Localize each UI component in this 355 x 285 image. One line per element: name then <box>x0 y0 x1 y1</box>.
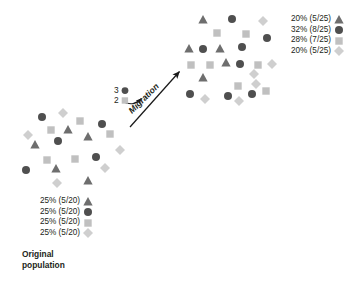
legend-right-item-label: 20% (5/25) <box>273 46 331 57</box>
legend-left-item-label: 25% (5/20) <box>22 196 80 207</box>
legend-left-item-label: 25% (5/20) <box>22 217 80 228</box>
diamond-icon <box>258 16 268 26</box>
square-icon <box>121 96 129 107</box>
legend-left-item-label: 25% (5/20) <box>22 228 80 239</box>
legend-right-item-row: 28% (7/25) <box>273 35 345 46</box>
triangle-icon <box>221 58 230 66</box>
triangle-icon <box>198 15 207 23</box>
legend-left-item-row: 25% (5/20) <box>22 196 94 207</box>
legend-right-item-row: 32% (8/25) <box>273 25 345 36</box>
triangle-icon <box>30 140 39 148</box>
diamond-icon <box>334 46 344 56</box>
diamond-icon <box>58 108 68 118</box>
diamond-icon <box>115 145 125 155</box>
caption-line-2: population <box>22 260 65 271</box>
triangle-icon <box>215 44 224 52</box>
diamond-icon <box>23 130 33 140</box>
circle-icon <box>263 34 271 42</box>
circle-icon <box>186 90 194 98</box>
square-icon <box>76 117 83 124</box>
circle-icon <box>238 43 246 51</box>
legend-left-item-row: 25% (5/20) <box>22 217 94 228</box>
cluster-original-population <box>22 108 125 188</box>
square-icon <box>335 37 342 44</box>
square-icon <box>234 82 241 89</box>
caption-original-population: Original population <box>22 249 65 271</box>
diagram-canvas: Migration 3 2 25% (5/20)25% (5/20)25% (5… <box>0 0 355 285</box>
diamond-icon <box>83 228 93 238</box>
migration-count-square: 2 <box>114 96 119 105</box>
legend-right-item-row: 20% (5/25) <box>273 14 345 25</box>
square-icon <box>47 126 54 133</box>
square-icon <box>187 61 194 68</box>
square-icon <box>331 35 345 46</box>
square-icon <box>254 61 261 68</box>
migration-count-circle-value: 3 <box>114 85 119 95</box>
triangle-icon <box>83 197 92 205</box>
circle-icon <box>98 120 106 128</box>
legend-left-item-row: 25% (5/20) <box>22 207 94 218</box>
circle-icon <box>22 166 30 174</box>
square-icon <box>43 156 50 163</box>
diamond-icon <box>251 79 261 89</box>
legend-right-item-row: 20% (5/25) <box>273 46 345 57</box>
square-icon <box>84 219 91 226</box>
circle-icon <box>331 25 345 36</box>
circle-icon <box>236 60 244 68</box>
triangle-icon <box>83 132 92 140</box>
legend-right-item-label: 28% (7/25) <box>273 35 331 46</box>
circle-icon <box>38 113 46 121</box>
diamond-icon <box>234 96 244 106</box>
square-icon <box>71 155 78 162</box>
diamond-icon <box>100 163 110 173</box>
diamond-icon <box>267 59 277 69</box>
cluster-post-migration-population <box>184 15 277 106</box>
migration-count-square-value: 2 <box>114 95 119 105</box>
legend-right-item-label: 20% (5/25) <box>273 14 331 25</box>
triangle-icon <box>83 176 92 184</box>
diamond-icon <box>80 228 94 239</box>
triangle-icon <box>184 44 193 52</box>
square-icon <box>206 61 213 68</box>
square-icon <box>106 130 113 137</box>
circle-icon <box>80 207 94 218</box>
circle-icon <box>84 208 92 216</box>
triangle-icon <box>198 73 207 81</box>
triangle-icon <box>51 164 60 172</box>
square-icon <box>262 87 269 94</box>
legend-right-item-label: 32% (8/25) <box>273 25 331 36</box>
diamond-icon <box>200 94 210 104</box>
square-icon <box>242 30 249 37</box>
legend-left-item-label: 25% (5/20) <box>22 207 80 218</box>
triangle-icon <box>331 14 345 25</box>
circle-icon <box>248 90 256 98</box>
circle-icon <box>228 15 236 23</box>
square-icon <box>213 29 220 36</box>
migration-count-circle: 3 <box>114 86 119 95</box>
square-icon <box>80 217 94 228</box>
circle-icon <box>335 26 343 34</box>
circle-icon <box>224 92 232 100</box>
diamond-icon <box>331 46 345 57</box>
circle-icon <box>199 45 207 53</box>
legend-left-item-row: 25% (5/20) <box>22 228 94 239</box>
triangle-icon <box>334 15 343 23</box>
legend-original-population: 25% (5/20)25% (5/20)25% (5/20)25% (5/20) <box>22 196 94 238</box>
diamond-icon <box>249 69 259 79</box>
diamond-icon <box>52 178 62 188</box>
circle-icon <box>92 153 100 161</box>
circle-icon <box>54 137 62 145</box>
triangle-icon <box>63 125 72 133</box>
legend-post-migration-population: 20% (5/25)32% (8/25)28% (7/25)20% (5/25) <box>273 14 345 56</box>
triangle-icon <box>80 196 94 207</box>
caption-line-1: Original <box>22 249 65 260</box>
